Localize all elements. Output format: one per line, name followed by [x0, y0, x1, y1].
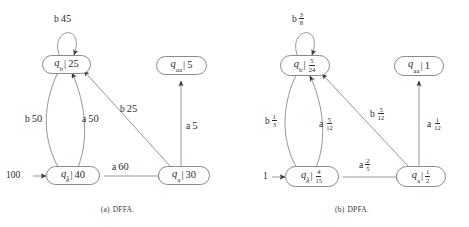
edge-fraction-b-5-12: 5 12 [377, 106, 386, 121]
edge-label-a-5-12: a 5 12 [319, 116, 334, 131]
state-qaa[interactable]: qaa|5 [156, 56, 207, 75]
start-weight-dpfa: 1 [263, 171, 268, 181]
state-qa-fraction: 1 2 [425, 168, 430, 183]
state-qb-fraction: 5 24 [308, 57, 317, 72]
state-qlambda-label: qλ|40 [61, 169, 85, 182]
edge-label-b-3-8: b 3 8 [292, 11, 304, 26]
state-qa-label: qa|30 [172, 169, 196, 182]
state-qb[interactable]: qb|25 [42, 55, 91, 74]
state-qb-label: qb|25 [54, 58, 78, 71]
edge-label-a-2-5: a 2 5 [359, 157, 370, 172]
edge-label-a-1-12: a 1 12 [427, 116, 442, 131]
state-qlambda[interactable]: qλ| 4 15 [285, 166, 339, 187]
edge-fraction-2-5: 2 5 [365, 157, 370, 172]
edge-label-b-5-12: b 5 12 [370, 106, 385, 121]
edge-label-b50: b 50 [25, 113, 42, 124]
edge-qb-self-loop [58, 33, 77, 57]
caption-dpfa-text: DPFA. [347, 205, 369, 214]
state-qa[interactable]: qa|30 [158, 166, 210, 185]
edge-qb-to-qlambda [285, 75, 299, 172]
edge-fraction-1-12: 1 12 [433, 116, 442, 131]
state-qlambda-label: qλ| 4 15 [301, 169, 323, 184]
edge-fraction-5-12: 5 12 [325, 116, 334, 131]
state-qa-label: qa| 1 2 [412, 169, 431, 184]
edge-qa-to-qb [322, 74, 408, 166]
caption-dpfa: (b)DPFA. [235, 205, 469, 214]
edge-qb-self-loop [296, 33, 315, 57]
caption-dffa-text: DFFA. [113, 205, 135, 214]
state-qaa-label: qaa|1 [408, 59, 430, 72]
edge-qb-to-qlambda [46, 72, 61, 172]
figure-page: qb|25 qaa|5 qλ|40 qa|30 100 b 45 b [0, 0, 469, 227]
caption-dpfa-index: (b) [335, 205, 344, 214]
state-qlambda-fraction: 4 15 [315, 168, 324, 183]
edge-label-b45: b 45 [54, 13, 71, 24]
figure-dffa: qb|25 qaa|5 qλ|40 qa|30 100 b 45 b [0, 0, 235, 227]
edge-label-a5: a 5 [186, 120, 197, 131]
start-weight-dffa: 100 [6, 170, 20, 180]
state-qb[interactable]: qb| 5 24 [280, 55, 330, 76]
caption-dffa: (a)DFFA. [0, 205, 235, 214]
state-qa[interactable]: qa| 1 2 [396, 166, 446, 187]
state-qaa[interactable]: qaa|1 [394, 56, 444, 76]
edge-fraction-1-3: 1 3 [272, 113, 277, 128]
figure-dpfa: qb| 5 24 qaa|1 qλ| 4 15 qa| 1 [235, 0, 469, 227]
edge-label-b-1-3: b 1 3 [265, 113, 277, 128]
edge-fraction-3-8: 3 8 [299, 11, 304, 26]
state-qb-label: qb| 5 24 [294, 58, 316, 73]
caption-dffa-index: (a) [101, 205, 110, 214]
edge-label-b25: b 25 [120, 103, 137, 114]
edge-label-a50: a 50 [82, 113, 99, 124]
state-qlambda[interactable]: qλ|40 [46, 166, 100, 185]
edge-label-a60: a 60 [112, 161, 129, 172]
state-qaa-label: qaa|5 [171, 59, 193, 72]
